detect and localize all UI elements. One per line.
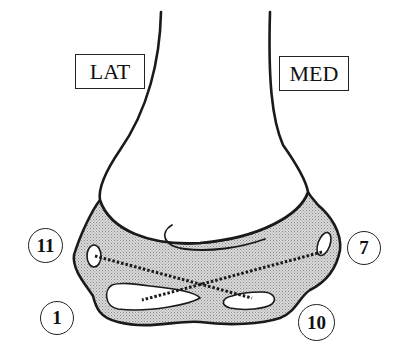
marker-11: 11 (28, 228, 63, 263)
marker-7: 7 (347, 231, 381, 265)
bone-shaft-outline (100, 12, 308, 243)
lateral-label: LAT (75, 54, 145, 89)
marker-10: 10 (298, 304, 335, 341)
marker-1: 1 (40, 301, 74, 335)
medial-label: MED (279, 56, 349, 91)
hole-11 (87, 245, 101, 267)
